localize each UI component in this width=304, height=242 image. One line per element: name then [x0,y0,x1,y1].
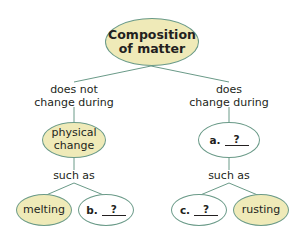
right-such-as-label: such as [199,170,259,183]
melting-node: melting [16,194,72,226]
blank-b-answer: ? [102,204,126,217]
left-such-as-label: such as [44,170,104,183]
blank-a-answer: ? [225,134,249,147]
rusting-text: rusting [242,204,281,217]
melting-text: melting [23,204,65,217]
blank-node-c: c. ? [171,194,227,226]
rusting-node: rusting [233,194,289,226]
left-link-line2: change during [34,97,114,110]
physical-change-node: physical change [42,122,106,158]
blank-c-content: c. ? [180,204,218,217]
left-link-label: does not change during [34,84,114,109]
right-link-label: does change during [189,84,269,109]
right-link-line1: does [189,84,269,97]
right-link-line2: change during [189,97,269,110]
left-link-line1: does not [34,84,114,97]
blank-c-letter: c. [180,204,190,216]
blank-node-a: a. ? [198,122,260,158]
blank-node-b: b. ? [78,194,134,226]
blank-c-answer: ? [194,204,218,217]
root-line1: Composition [108,28,196,42]
root-line2: of matter [119,42,185,56]
blank-a-letter: a. [209,134,220,146]
blank-a-content: a. ? [209,134,248,147]
root-node-composition-of-matter: Composition of matter [105,18,199,66]
blank-b-letter: b. [86,204,98,216]
physical-change-line2: change [54,140,94,153]
blank-b-content: b. ? [86,204,126,217]
